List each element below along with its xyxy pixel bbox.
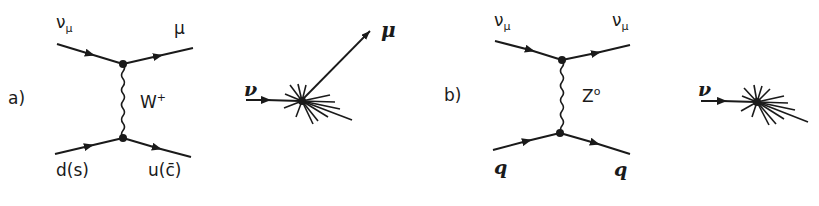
label-nu-mu-out: νμ [612,12,629,29]
label-z-boson: Zo [582,88,600,105]
mu-subscript: μ [66,22,73,35]
interaction-point [298,97,306,105]
fermion-line-d-in [55,138,123,154]
panel-b-label: b) [444,87,461,104]
event-sketch-a [246,31,370,124]
nu-symbol: ν [612,10,622,30]
panel-a-label: a) [8,90,25,107]
fermion-line-q-out [560,133,630,154]
fermion-line-nu-in [57,44,123,64]
incoming-neutrino-track [701,101,756,102]
zero-superscript: o [594,85,601,98]
nu-symbol: ν [56,12,66,32]
fermion-line-nu-out [562,45,630,60]
event-sketch-b [701,85,808,125]
incoming-neutrino-track [246,100,300,101]
label-nu-mu-in: νμ [494,12,511,29]
w-boson-propagator [122,64,125,138]
label-q-out: q [614,160,627,179]
hadron-shower [741,85,808,125]
z-boson-propagator [561,60,564,133]
vertex-top [558,56,566,64]
label-event-nu: ν [244,80,257,99]
vertex-top [119,60,127,68]
mu-subscript: μ [504,20,511,33]
label-event-mu: μ [381,20,396,40]
fermion-line-mu-out [123,48,193,64]
diagram-canvas [0,0,819,206]
fermion-line-u-out [123,138,191,157]
label-w-boson: W+ [140,94,166,111]
z-symbol: Z [582,86,594,106]
label-u-cbar: u(c̄) [148,162,181,179]
vertex-bottom [556,129,564,137]
feynman-diagram-a [55,44,193,157]
feynman-diagram-b [493,41,630,154]
muon-track [302,31,370,100]
hadron-shower [284,84,352,124]
fermion-line-nu-in [495,41,562,60]
plus-superscript: + [157,91,166,104]
label-q-in: q [494,158,507,177]
label-event-nu: ν [698,80,711,99]
mu-subscript: μ [622,20,629,33]
nu-symbol: ν [494,10,504,30]
label-mu-out: μ [174,20,185,37]
fermion-line-q-in [493,133,560,150]
vertex-bottom [119,134,127,142]
w-symbol: W [140,92,157,112]
interaction-point [753,98,761,106]
label-nu-mu-in: νμ [56,14,73,31]
label-d-s: d(s) [56,162,89,179]
